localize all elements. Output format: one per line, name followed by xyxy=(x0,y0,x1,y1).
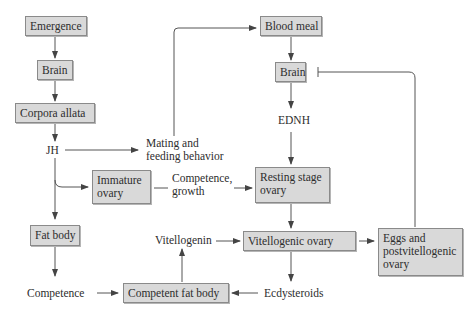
eggs-line2: postvitellogenic xyxy=(383,245,458,258)
box-blood-meal: Blood meal xyxy=(260,16,322,36)
eggs-line1: Eggs and xyxy=(383,232,458,245)
box-brain-right: Brain xyxy=(275,62,306,82)
immature-line2: ovary xyxy=(97,187,146,200)
box-emergence: Emergence xyxy=(25,16,87,36)
box-eggs-postvitellogenic-ovary: Eggs and postvitellogenic ovary xyxy=(378,228,463,276)
label-competence: Competence xyxy=(27,287,84,300)
box-vitellogenic-ovary: Vitellogenic ovary xyxy=(243,231,356,251)
label-competence-growth: Competence, growth xyxy=(172,172,232,198)
eggs-line3: ovary xyxy=(383,258,458,271)
resting-line1: Resting stage xyxy=(260,171,325,184)
label-mating-feeding: Mating and feeding behavior xyxy=(146,137,224,163)
box-competent-fat-body: Competent fat body xyxy=(123,283,229,303)
box-resting-stage-ovary: Resting stage ovary xyxy=(255,167,330,203)
box-corpora-allata: Corpora allata xyxy=(15,103,95,123)
cg-line2: growth xyxy=(172,185,232,198)
box-fat-body: Fat body xyxy=(30,225,80,246)
box-immature-ovary: Immature ovary xyxy=(92,170,151,204)
resting-line2: ovary xyxy=(260,184,325,197)
label-jh: JH xyxy=(46,144,59,157)
label-mating-line2: feeding behavior xyxy=(146,150,224,163)
label-mating-line1: Mating and xyxy=(146,137,224,150)
label-ednh: EDNH xyxy=(278,114,310,127)
box-brain-left: Brain xyxy=(37,60,73,80)
immature-line1: Immature xyxy=(97,174,146,187)
label-vitellogenin: Vitellogenin xyxy=(155,234,212,247)
label-ecdysteroids: Ecdysteroids xyxy=(264,287,323,300)
cg-line1: Competence, xyxy=(172,172,232,185)
